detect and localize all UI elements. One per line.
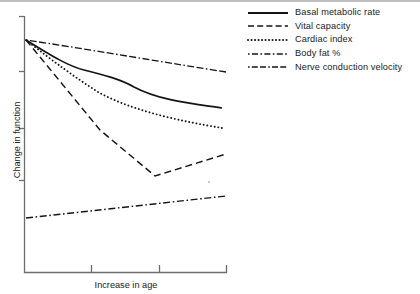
legend-item-nerve-conduction-velocity: Nerve conduction velocity [246,60,420,74]
legend-label-cardiac-index: Cardiac index [295,35,352,44]
chart-figure: Basal metabolic rate Vital capacity Card… [0,0,420,294]
legend: Basal metabolic rate Vital capacity Card… [246,6,420,74]
legend-label-vital-capacity: Vital capacity [295,22,350,31]
x-axis-ticks [92,265,227,273]
legend-item-body-fat-percent: Body fat % [246,47,420,61]
legend-swatch-dashdot-icon [246,48,290,60]
legend-item-basal-metabolic-rate: Basal metabolic rate [246,6,420,20]
legend-swatch-dotted-icon [246,34,290,46]
legend-swatch-solid-icon [246,7,290,19]
legend-label-body-fat-percent: Body fat % [295,49,340,58]
series-line-body-fat-percent [26,196,226,218]
legend-swatch-dashdotdot-icon [246,61,290,73]
legend-label-nerve-conduction-velocity: Nerve conduction velocity [295,63,402,72]
series-line-nerve-conduction-velocity [26,40,226,72]
axis-spines [25,16,228,273]
legend-item-vital-capacity: Vital capacity [246,20,420,34]
legend-label-basal-metabolic-rate: Basal metabolic rate [295,8,380,17]
series-line-cardiac-index [26,40,222,128]
y-axis-title: Change in function [12,80,22,200]
series-line-vital-capacity [26,40,226,176]
x-axis-title: Increase in age [24,280,228,290]
series-line-basal-metabolic-rate [26,40,222,108]
legend-item-cardiac-index: Cardiac index [246,33,420,47]
scan-speck [208,181,210,183]
legend-swatch-dashed-icon [246,20,290,32]
